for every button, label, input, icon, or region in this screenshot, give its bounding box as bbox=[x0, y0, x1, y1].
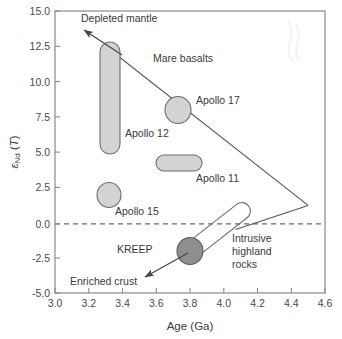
x-tick-label: 3.0 bbox=[48, 297, 63, 309]
x-tick-label: 3.4 bbox=[115, 297, 130, 309]
label-apollo-11: Apollo 11 bbox=[196, 172, 239, 184]
x-axis-tick-labels: 3.0 3.2 3.4 3.6 3.8 4.0 4.2 4.4 4.6 bbox=[48, 297, 333, 309]
y-tick-label: 10.0 bbox=[30, 76, 51, 88]
y-tick-label: 7.5 bbox=[35, 111, 50, 123]
label-apollo-12: Apollo 12 bbox=[125, 127, 169, 139]
x-tick-label: 4.2 bbox=[250, 297, 265, 309]
y-axis-tick-labels: 15.0 12.5 10.0 7.5 5.0 2.5 0.0 -2.5 -5.0 bbox=[30, 5, 51, 299]
apollo-17-marker bbox=[165, 97, 191, 124]
x-tick-label: 4.6 bbox=[318, 297, 333, 309]
label-apollo-17: Apollo 17 bbox=[196, 94, 240, 106]
x-tick-label: 4.4 bbox=[284, 297, 299, 309]
x-tick-label: 3.2 bbox=[81, 297, 96, 309]
svg-text:εNd (T): εNd (T) bbox=[8, 135, 22, 168]
y-tick-label: 2.5 bbox=[35, 181, 50, 193]
label-apollo-15: Apollo 15 bbox=[115, 205, 159, 217]
y-tick-label: -2.5 bbox=[32, 252, 50, 264]
apollo-12-marker bbox=[100, 42, 120, 154]
y-tick-label: 15.0 bbox=[30, 5, 51, 17]
y-axis-title-subscript: Nd bbox=[13, 153, 22, 163]
scatter-plot-svg: 15.0 12.5 10.0 7.5 5.0 2.5 0.0 -2.5 -5.0… bbox=[0, 0, 342, 339]
annotation-enriched-crust: Enriched crust bbox=[70, 275, 137, 287]
apollo-11-marker bbox=[156, 155, 202, 171]
apollo-15-marker bbox=[97, 183, 121, 208]
y-axis-ticks bbox=[55, 11, 60, 293]
highland-trend-line bbox=[236, 205, 309, 229]
chart-figure: 15.0 12.5 10.0 7.5 5.0 2.5 0.0 -2.5 -5.0… bbox=[0, 0, 342, 339]
watermark-artifact bbox=[288, 20, 299, 62]
kreep-marker bbox=[177, 238, 203, 265]
label-intrusive-line-2: highland bbox=[232, 245, 272, 257]
enriched-crust-arrow bbox=[145, 253, 188, 277]
x-axis-ticks bbox=[55, 288, 325, 293]
annotation-depleted-mantle: Depleted mantle bbox=[81, 12, 158, 24]
x-tick-label: 3.8 bbox=[183, 297, 198, 309]
label-intrusive-line-3: rocks bbox=[232, 258, 257, 270]
x-axis-title: Age (Ga) bbox=[167, 320, 214, 332]
group-apollo-12 bbox=[100, 42, 120, 154]
y-tick-label: 0.0 bbox=[35, 218, 50, 230]
y-axis-title: εNd (T) bbox=[8, 135, 22, 168]
y-tick-label: 12.5 bbox=[30, 40, 51, 52]
label-intrusive-line-1: Intrusive bbox=[232, 232, 272, 244]
label-intrusive-highland-rocks: Intrusive highland rocks bbox=[232, 232, 272, 270]
x-tick-label: 3.6 bbox=[149, 297, 164, 309]
x-tick-label: 4.0 bbox=[216, 297, 231, 309]
y-tick-label: 5.0 bbox=[35, 146, 50, 158]
label-kreep: KREEP bbox=[117, 243, 153, 255]
y-axis-title-paren-close: ) bbox=[8, 135, 20, 139]
annotation-mare-basalts: Mare basalts bbox=[153, 52, 213, 64]
